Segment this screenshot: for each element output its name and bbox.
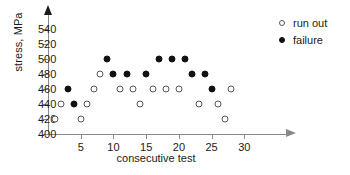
data-point-runout xyxy=(195,101,202,108)
x-tick-label: 25 xyxy=(206,142,218,153)
data-point-runout xyxy=(51,116,58,123)
y-tick-label: 480 xyxy=(38,69,43,80)
x-axis-label: consecutive test xyxy=(48,152,264,164)
plot-area: 400420440460480500520540 51015202530 xyxy=(48,22,264,134)
x-axis-arrow-icon xyxy=(286,129,296,137)
y-tick-label: 420 xyxy=(38,114,43,125)
data-point-failure xyxy=(202,71,209,78)
legend-label: failure xyxy=(293,34,323,46)
data-point-runout xyxy=(130,86,137,93)
data-point-runout xyxy=(97,71,104,78)
x-axis-line xyxy=(48,134,288,135)
x-tick xyxy=(244,134,245,139)
data-point-runout xyxy=(136,101,143,108)
data-point-runout xyxy=(228,86,235,93)
filled-circle-icon xyxy=(276,37,288,43)
data-point-runout xyxy=(221,116,228,123)
y-tick-label: 540 xyxy=(38,24,43,35)
data-point-failure xyxy=(110,71,117,78)
legend-item-failure: failure xyxy=(276,31,327,48)
open-circle-icon xyxy=(276,20,288,26)
y-tick-label: 400 xyxy=(38,129,43,140)
legend-item-run-out: run out xyxy=(276,14,327,31)
data-point-runout xyxy=(58,101,65,108)
x-tick-label: 5 xyxy=(78,142,84,153)
data-point-runout xyxy=(175,86,182,93)
data-point-runout xyxy=(90,86,97,93)
x-tick xyxy=(146,134,147,139)
y-axis-label: stress, MPa xyxy=(12,0,24,90)
x-tick xyxy=(179,134,180,139)
x-tick-label: 15 xyxy=(140,142,152,153)
x-tick-label: 10 xyxy=(107,142,119,153)
x-tick xyxy=(212,134,213,139)
data-point-failure xyxy=(143,71,150,78)
data-point-runout xyxy=(84,101,91,108)
x-tick-label: 30 xyxy=(238,142,250,153)
data-point-failure xyxy=(189,71,196,78)
scatter-chart: stress, MPa consecutive test 40042044046… xyxy=(0,0,350,175)
x-tick-label: 20 xyxy=(173,142,185,153)
data-point-failure xyxy=(64,86,71,93)
data-point-runout xyxy=(117,86,124,93)
legend-label: run out xyxy=(293,17,327,29)
y-tick-label: 460 xyxy=(38,84,43,95)
data-point-failure xyxy=(156,56,163,63)
data-point-runout xyxy=(215,101,222,108)
data-point-failure xyxy=(182,56,189,63)
data-point-failure xyxy=(208,86,215,93)
y-tick-label: 500 xyxy=(38,54,43,65)
chart-legend: run out failure xyxy=(276,14,327,48)
y-axis-arrow-icon xyxy=(44,5,52,15)
data-point-runout xyxy=(77,116,84,123)
x-tick xyxy=(81,134,82,139)
data-point-runout xyxy=(162,86,169,93)
x-tick xyxy=(113,134,114,139)
y-tick-label: 520 xyxy=(38,39,43,50)
data-point-failure xyxy=(169,56,176,63)
data-point-runout xyxy=(149,86,156,93)
data-point-failure xyxy=(103,56,110,63)
y-tick-label: 440 xyxy=(38,99,43,110)
data-point-failure xyxy=(71,101,78,108)
data-point-failure xyxy=(123,71,130,78)
